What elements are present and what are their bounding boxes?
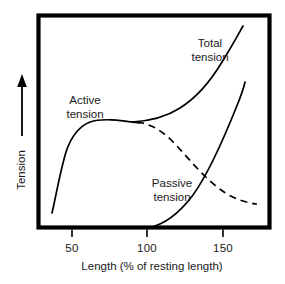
active-tension-label: Active tension	[66, 94, 103, 120]
chart-svg: Tension 50 100 150 Length (% of resting …	[0, 0, 285, 284]
passive-tension-label-line2: tension	[153, 191, 190, 203]
tension-length-chart: Tension 50 100 150 Length (% of resting …	[0, 0, 285, 284]
x-axis-ticks	[72, 230, 223, 238]
passive-tension-curve	[148, 82, 245, 228]
passive-tension-label: Passive tension	[152, 177, 192, 203]
x-axis-title: Length (% of resting length)	[81, 260, 222, 272]
active-tension-label-line1: Active	[69, 94, 100, 106]
x-tick-label-150: 150	[213, 242, 233, 254]
total-tension-label: Total tension	[191, 37, 228, 63]
passive-tension-label-line1: Passive	[152, 177, 192, 189]
total-tension-label-line1: Total	[198, 37, 222, 49]
x-tick-label-100: 100	[137, 242, 157, 254]
y-axis-title: Tension	[15, 150, 27, 190]
y-axis-arrow	[17, 74, 27, 136]
arrow-head-icon	[17, 74, 27, 87]
total-tension-label-line2: tension	[191, 51, 228, 63]
active-tension-label-line2: tension	[66, 108, 103, 120]
active-tension-curve-solid	[52, 120, 140, 213]
total-tension-curve	[132, 26, 243, 122]
x-tick-label-50: 50	[65, 242, 78, 254]
